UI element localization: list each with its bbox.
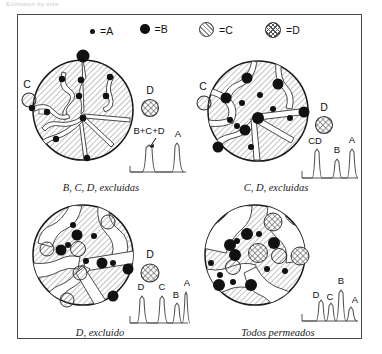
legend-label-c: =C bbox=[219, 24, 233, 36]
panel-2: C D CD B A bbox=[190, 48, 362, 194]
cross-hatched-circle-icon bbox=[265, 22, 281, 38]
panel-2-caption: C, D, excluidas bbox=[190, 182, 362, 193]
particle-d-outside bbox=[142, 100, 159, 117]
particle-d-outside bbox=[316, 117, 333, 134]
label-d-outside: D bbox=[146, 248, 154, 260]
legend-item-c: =C bbox=[199, 22, 233, 37]
figure-frame: =A =B =C =D bbox=[17, 14, 362, 339]
panel-2-chromatogram: CD B A bbox=[302, 134, 358, 178]
panel-4: D C B A Todos permeados bbox=[190, 193, 362, 339]
peak-label-b: B bbox=[173, 289, 179, 300]
panel-3: D bbox=[18, 193, 190, 339]
legend-item-d: =D bbox=[265, 22, 300, 38]
particle-c-outside bbox=[197, 96, 211, 110]
label-c-outside: C bbox=[199, 80, 207, 92]
label-d-outside: D bbox=[320, 101, 328, 113]
peak-label-d: D bbox=[138, 281, 145, 292]
panel-1: B C D B+C+D A B, C, D, excluidas bbox=[18, 48, 190, 194]
panel-4-graphic: D C B A bbox=[190, 193, 362, 339]
panel-4-chromatogram: D C B A bbox=[302, 275, 359, 321]
legend-label-d: =D bbox=[286, 24, 300, 36]
label-d-outside: D bbox=[146, 84, 154, 96]
panel-1-caption: B, C, D, excluidas bbox=[18, 182, 190, 193]
panel-3-graphic: D bbox=[18, 193, 190, 339]
peak-label-a: A bbox=[175, 128, 182, 139]
peak-label-a: A bbox=[349, 134, 356, 145]
legend: =A =B =C =D bbox=[18, 23, 363, 47]
peak-label-a: A bbox=[352, 294, 359, 305]
panel-4-caption: Todos permeados bbox=[190, 327, 362, 338]
label-c-outside: C bbox=[23, 78, 31, 90]
diagonal-hatched-circle-icon bbox=[199, 22, 214, 37]
panel-1-graphic: B C D B+C+D A bbox=[18, 48, 190, 194]
peak-label-b: B bbox=[338, 275, 344, 286]
panel-3-chromatogram: D C B A bbox=[130, 277, 190, 323]
peak-label-c: C bbox=[159, 281, 166, 292]
figure-root: Exclusion by size =A =B =C =D bbox=[0, 0, 382, 354]
particle-b-outside bbox=[77, 50, 90, 63]
large-black-dot-icon bbox=[140, 24, 150, 34]
peak-label-b: B bbox=[334, 144, 340, 155]
cropped-header-text: Exclusion by size bbox=[6, 1, 59, 8]
panel-3-caption: D, excluido bbox=[18, 327, 190, 338]
panel-1-chromatogram: B+C+D A bbox=[130, 125, 186, 172]
particle-c-outside bbox=[22, 93, 36, 107]
particle-d-outside bbox=[141, 264, 159, 282]
peak-label-c: C bbox=[327, 291, 334, 302]
small-black-dot-icon bbox=[90, 29, 95, 34]
peak-label-d: D bbox=[313, 289, 320, 300]
legend-label-a: =A bbox=[100, 25, 113, 37]
legend-label-b: =B bbox=[155, 23, 168, 35]
legend-item-b: =B bbox=[140, 23, 168, 35]
peak-label-bcd: B+C+D bbox=[133, 125, 164, 136]
panel-2-graphic: C D CD B A bbox=[190, 48, 362, 194]
legend-item-a: =A bbox=[90, 25, 113, 37]
peak-label-cd: CD bbox=[308, 135, 322, 146]
